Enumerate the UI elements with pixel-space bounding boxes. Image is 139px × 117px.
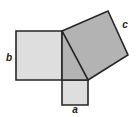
label-c: c <box>122 19 128 30</box>
square-on-leg-a <box>62 80 88 105</box>
label-a: a <box>72 104 78 115</box>
square-on-leg-b <box>16 31 62 80</box>
label-b: b <box>6 52 12 63</box>
pythagorean-diagram-svg: b a c <box>0 0 139 117</box>
diagram-canvas: b a c <box>0 0 139 117</box>
